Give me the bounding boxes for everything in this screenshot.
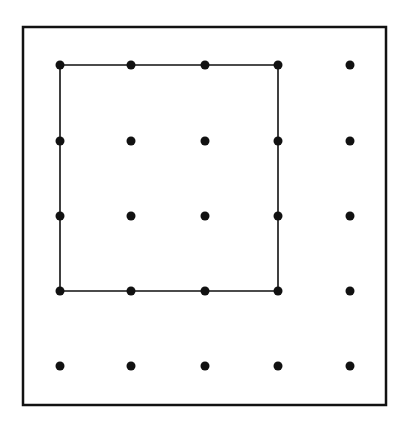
grid-dot-r5-c3: [201, 362, 210, 371]
grid-dot-r2-c3: [201, 137, 210, 146]
grid-dot-r1-c1: [56, 61, 65, 70]
grid-dot-r4-c1: [56, 287, 65, 296]
grid-dot-r2-c1: [56, 137, 65, 146]
grid-dot-r3-c2: [127, 212, 136, 221]
grid-dot-r1-c4: [274, 61, 283, 70]
grid-dot-r3-c3: [201, 212, 210, 221]
grid-dot-r4-c4: [274, 287, 283, 296]
grid-dot-r5-c1: [56, 362, 65, 371]
grid-dot-r5-c2: [127, 362, 136, 371]
grid-dot-r1-c3: [201, 61, 210, 70]
grid-dot-r5-c5: [346, 362, 355, 371]
grid-dot-r2-c2: [127, 137, 136, 146]
grid-dot-r2-c5: [346, 137, 355, 146]
grid-dot-r4-c2: [127, 287, 136, 296]
grid-dot-r4-c5: [346, 287, 355, 296]
grid-dot-r3-c1: [56, 212, 65, 221]
grid-dot-r2-c4: [274, 137, 283, 146]
grid-dot-r3-c4: [274, 212, 283, 221]
grid-dot-r1-c5: [346, 61, 355, 70]
grid-dot-r5-c4: [274, 362, 283, 371]
grid-dot-r1-c2: [127, 61, 136, 70]
drawn-square: [60, 65, 278, 291]
geoboard-diagram: [0, 0, 411, 423]
grid-dot-r3-c5: [346, 212, 355, 221]
grid-dot-r4-c3: [201, 287, 210, 296]
dot-grid: [56, 61, 355, 371]
